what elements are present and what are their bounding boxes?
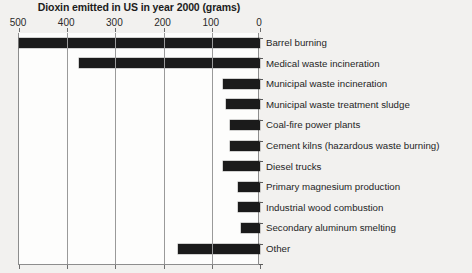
x-axis-tickmark: [115, 265, 116, 269]
category-tickmark: [259, 264, 263, 265]
category-tickmark: [259, 58, 263, 59]
x-axis-tick-label: 500: [10, 17, 27, 28]
x-axis-tickmark: [164, 265, 165, 269]
category-label: Diesel trucks: [266, 161, 321, 172]
x-axis-tick-label: 200: [154, 17, 171, 28]
x-axis-tickmark-top: [19, 28, 20, 32]
x-axis-tick-label: 400: [58, 17, 75, 28]
category-label: Other: [266, 243, 290, 254]
category-label: Primary magnesium production: [266, 181, 400, 192]
gridline: [212, 33, 213, 264]
x-axis-tickmark-top: [115, 28, 116, 32]
gridline: [115, 33, 116, 264]
category-label: Barrel burning: [266, 37, 327, 48]
category-tickmark: [259, 99, 263, 100]
bar: [230, 141, 260, 151]
x-axis-tick-label: 100: [202, 17, 219, 28]
gridline: [164, 33, 165, 264]
x-axis-tickmark: [260, 265, 261, 269]
x-axis-tick-label: 0: [256, 17, 262, 28]
bar-series: [19, 33, 258, 264]
category-label-list: Barrel burningMedical waste incineration…: [266, 33, 472, 265]
category-tickmark: [259, 141, 263, 142]
bar: [230, 120, 260, 130]
category-tickmark: [259, 38, 263, 39]
category-label: Coal-fire power plants: [266, 119, 360, 130]
chart-title: Dioxin emitted in US in year 2000 (grams…: [18, 1, 260, 13]
bar: [226, 99, 260, 109]
x-axis-tickmark-top: [67, 28, 68, 32]
category-label: Industrial wood combustion: [266, 202, 383, 213]
category-tickmark: [259, 202, 263, 203]
bar: [19, 38, 260, 48]
x-axis-tickmark-top: [212, 28, 213, 32]
bar: [223, 161, 260, 171]
plot-area: [18, 33, 259, 265]
category-label: Municipal waste incineration: [266, 78, 387, 89]
category-tickmark: [259, 244, 263, 245]
bar: [238, 202, 260, 212]
x-axis-tickmark: [19, 265, 20, 269]
x-axis-tickmark: [67, 265, 68, 269]
bar: [241, 223, 260, 233]
category-tickmark: [259, 79, 263, 80]
category-label: Secondary aluminum smelting: [266, 222, 396, 233]
gridline: [67, 33, 68, 264]
bar: [223, 79, 260, 89]
bar: [238, 182, 260, 192]
category-label: Medical waste incineration: [266, 58, 380, 69]
bar: [178, 244, 260, 254]
category-tickmark: [259, 120, 263, 121]
bar: [79, 58, 260, 68]
category-tickmark: [259, 223, 263, 224]
category-label: Municipal waste treatment sludge: [266, 99, 410, 110]
x-axis-tickmark-top: [260, 28, 261, 32]
category-tickmark: [259, 161, 263, 162]
x-axis-tickmark-top: [164, 28, 165, 32]
category-tickmark: [259, 182, 263, 183]
x-axis-tick-labels: 5004003002001000: [0, 17, 472, 30]
x-axis-tick-label: 300: [106, 17, 123, 28]
category-label: Cement kilns (hazardous waste burning): [266, 140, 439, 151]
dioxin-emissions-bar-chart: Dioxin emitted in US in year 2000 (grams…: [0, 0, 472, 273]
x-axis-tickmark: [212, 265, 213, 269]
